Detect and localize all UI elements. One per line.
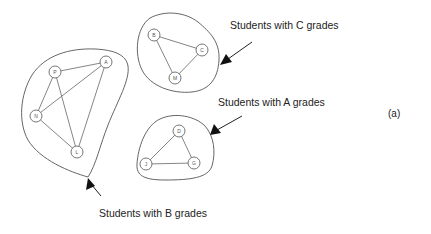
caption-a-group: Students with A grades [210,96,325,135]
caption-b-group: Students with B grades [86,178,207,219]
caption-c-group: Students with C grades [220,19,339,65]
node-d: D [173,125,185,137]
node-n-label: N [34,113,38,119]
edge-a-n [36,62,106,116]
node-p: P [49,66,61,78]
caption-a-grades: Students with A grades [218,96,325,108]
arrow-b-head-icon [86,178,95,190]
arrow-c-line [228,42,252,59]
node-m: M [169,72,181,84]
node-a: A [100,56,112,68]
caption-b-grades: Students with B grades [99,207,207,219]
arrow-a-head-icon [210,124,221,135]
edge-a-l [77,62,106,152]
cluster-a-outline [137,115,214,180]
node-g: G [188,157,200,169]
edge-b-m [154,35,175,78]
cluster-a-grades: D J G [137,115,214,180]
edge-n-l [36,116,77,152]
grade-clusters-diagram: P A N L B C M [0,0,431,234]
figure-label: (a) [388,108,400,119]
node-l-label: L [76,149,79,155]
caption-c-grades: Students with C grades [230,19,339,31]
arrow-a-line [217,116,242,130]
edge-p-l [55,72,77,152]
node-c-label: C [200,47,204,53]
edge-b-c [154,35,202,50]
cluster-b-grades: P A N L [22,49,129,177]
node-b: B [148,29,160,41]
edge-d-j [146,131,179,164]
node-c: C [196,44,208,56]
node-j: J [140,158,152,170]
node-g-label: G [192,160,196,166]
node-n: N [30,110,42,122]
edge-p-n [36,72,55,116]
node-l: L [71,146,83,158]
cluster-c-grades: B C M [137,13,219,92]
node-d-label: D [177,128,181,134]
node-m-label: M [173,75,177,81]
arrow-c-head-icon [220,54,232,65]
edge-j-g [146,163,194,164]
edge-p-a [55,62,106,72]
